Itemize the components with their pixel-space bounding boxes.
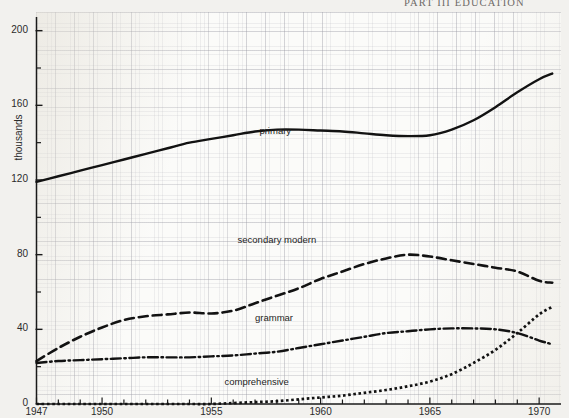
chart-page: PART III EDUCATION thousands 04080120160… bbox=[0, 0, 569, 418]
x-tick-label: 1950 bbox=[82, 406, 122, 417]
series-line-grammar bbox=[37, 328, 553, 363]
series-line-secondary-modern bbox=[37, 255, 553, 361]
y-tick-label: 40 bbox=[0, 322, 28, 333]
series-line-primary bbox=[37, 74, 553, 182]
x-tick-label: 1955 bbox=[191, 406, 231, 417]
x-tick-label: 1970 bbox=[519, 406, 559, 417]
series-label-grammar: grammar bbox=[255, 312, 293, 323]
series-label-comprehensive: comprehensive bbox=[224, 376, 288, 387]
y-tick-label: 200 bbox=[0, 24, 28, 35]
x-tick-label: 1947 bbox=[17, 406, 57, 417]
series-line-comprehensive bbox=[37, 307, 553, 404]
chart-canvas bbox=[0, 0, 569, 418]
axes-group bbox=[36, 17, 562, 404]
y-tick-label: 120 bbox=[0, 173, 28, 184]
y-tick-label: 80 bbox=[0, 248, 28, 259]
series-label-primary: primary bbox=[259, 125, 291, 136]
x-tick-label: 1965 bbox=[410, 406, 450, 417]
series-label-secondary-modern: secondary modern bbox=[238, 234, 317, 245]
y-tick-label: 160 bbox=[0, 98, 28, 109]
x-tick-label: 1960 bbox=[301, 406, 341, 417]
